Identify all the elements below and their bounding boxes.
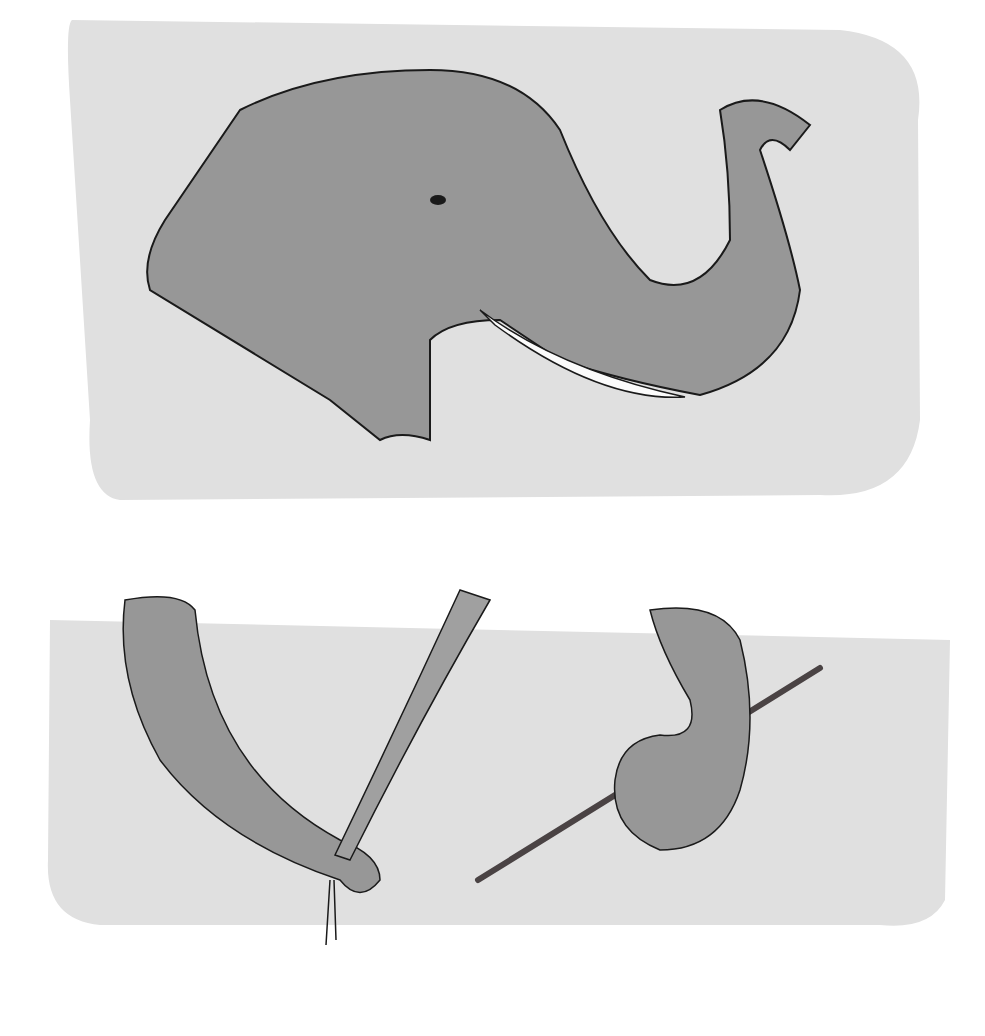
elephant-illustration bbox=[0, 0, 985, 1036]
